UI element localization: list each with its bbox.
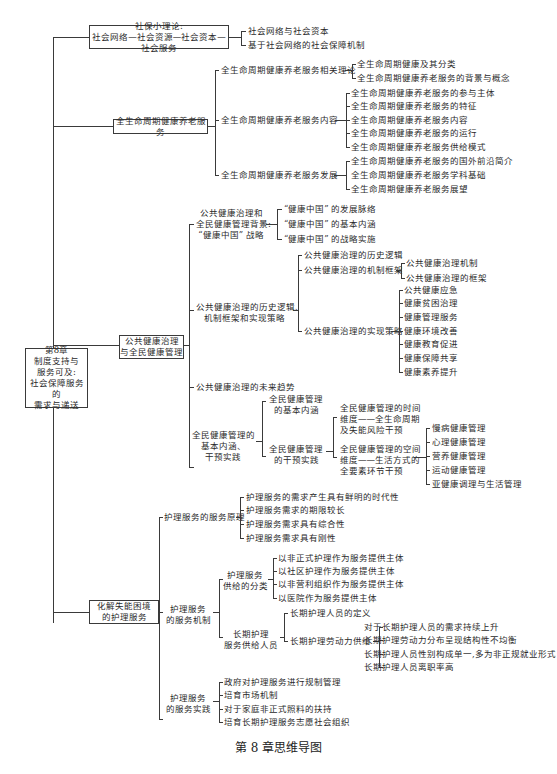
connector	[273, 558, 274, 598]
connector	[346, 93, 350, 94]
node-supply-classification[interactable]: 护理服务 供给的分类	[222, 570, 268, 592]
connector	[346, 147, 350, 148]
leaf-node[interactable]: 以非正式护理作为服务提供主体	[278, 553, 404, 564]
leaf-node[interactable]: 营养健康管理	[432, 451, 486, 462]
node-care-personnel[interactable]: 长期护理 服务供给人员	[222, 629, 280, 651]
leaf-node[interactable]: 护理服务需求具有刚性	[246, 533, 336, 544]
connector	[266, 224, 277, 225]
node-history-logic[interactable]: 公共健康治理的历史逻辑	[304, 250, 403, 261]
connector	[189, 310, 194, 311]
connector	[346, 189, 350, 190]
leaf-node[interactable]: “健康中国” 的基本内涵	[284, 219, 376, 230]
connector	[298, 255, 299, 331]
leaf-node[interactable]: 公共健康治理机制	[406, 258, 478, 269]
leaf-node[interactable]: 全生命周期健康养老服务的背景与概念	[357, 73, 510, 84]
node-background[interactable]: 公共健康治理和 全民健康管理背景: “健康中国” 战略	[196, 208, 266, 241]
connector	[352, 78, 356, 79]
node-line: “健康中国” 战略	[196, 230, 266, 241]
leaf-node[interactable]: 对于家庭非正式照料的扶持	[224, 704, 332, 715]
leaf-node[interactable]: 护理服务的需求产生具有鲜明的时代性	[246, 492, 399, 503]
leaf-node[interactable]: 健康素养提升	[404, 367, 458, 378]
leaf-node[interactable]: 基于社会网络的社会保障机制	[248, 40, 365, 51]
leaf-node[interactable]: 健康教育促进	[404, 339, 458, 350]
leaf-node[interactable]: 全生命周期健康养老服务的参与主体	[351, 88, 495, 99]
connector	[426, 484, 430, 485]
leaf-node[interactable]: 健康保障共享	[404, 353, 458, 364]
node-line: 维度——全生命周期	[340, 414, 421, 425]
node-content[interactable]: 全生命周期健康养老服务内容	[221, 115, 338, 126]
node-theory[interactable]: 全生命周期健康养老服务相关理论	[221, 65, 356, 76]
leaf-node[interactable]: 护理服务需求具有综合性	[246, 519, 345, 530]
leaf-node[interactable]: 全生命周期健康养老服务内容	[351, 115, 468, 126]
leaf-node[interactable]: 以非营利组织作为服务提供主体	[278, 579, 404, 590]
leaf-node[interactable]: 全生命周期健康养老服务的特征	[351, 101, 477, 112]
node-time-dimension[interactable]: 全民健康管理的时间 维度——全生命周期 及失能风险干预	[340, 403, 421, 436]
connector	[273, 558, 277, 559]
branch-label: 全生命周期健康养老服务	[114, 116, 207, 138]
node-personnel-definition[interactable]: 长期护理人员的定义	[290, 608, 371, 619]
leaf-node[interactable]: 全生命周期健康养老服务的运行	[351, 128, 477, 139]
node-line: 全民健康管理的空间	[340, 444, 421, 455]
leaf-node[interactable]: 健康管理服务	[404, 312, 458, 323]
branch-lifecycle-health-care[interactable]: 全生命周期健康养老服务	[113, 119, 208, 134]
leaf-node[interactable]: 培育市场机制	[224, 690, 278, 701]
connector	[189, 387, 194, 388]
leaf-node[interactable]: 长期护理人员性别构成单一,多为非正规就业形式	[364, 649, 556, 660]
node-line: 公共健康治理和	[196, 208, 266, 219]
node-service-practice[interactable]: 护理服务 的服务实践	[163, 693, 213, 715]
connector	[208, 126, 215, 127]
leaf-node[interactable]: 以社区护理作为服务提供主体	[278, 566, 395, 577]
node-line: 护理服务	[163, 693, 213, 704]
leaf-node[interactable]: 以医院作为服务提供主体	[278, 593, 377, 604]
branch-nursing-services[interactable]: 化解失能困境 的护理服务	[89, 600, 159, 624]
node-line: 全民健康管理	[266, 394, 326, 405]
leaf-node[interactable]: 运动健康管理	[432, 465, 486, 476]
node-service-principle[interactable]: 护理服务的服务原理	[164, 512, 245, 523]
node-national-health-management[interactable]: 全民健康管理的 基本内涵、 干预实践	[190, 430, 256, 463]
node-line: 的基本内涵	[266, 405, 326, 416]
leaf-node[interactable]: 健康贫困治理	[404, 298, 458, 309]
node-future-trend[interactable]: 公共健康治理的未来趋势	[196, 382, 295, 393]
branch-public-health-governance[interactable]: 公共健康治理 与全民健康管理	[119, 335, 184, 359]
leaf-node[interactable]: 全生命周期健康养老服务学科基础	[351, 170, 486, 181]
leaf-node[interactable]: 公共健康应急	[404, 285, 458, 296]
branch-social-theory[interactable]: 社保小理论: 社会网络—社会资源—社会资本—社会服务	[89, 25, 229, 49]
node-space-dimension[interactable]: 全民健康管理的空间 维度——生活方式的 全要素环节干预	[340, 444, 421, 477]
leaf-node[interactable]: 公共健康治理的框架	[406, 273, 487, 284]
leaf-node[interactable]: 全生命周期健康养老服务的国外前沿简介	[351, 156, 513, 167]
leaf-node[interactable]: 亚健康调理与生活管理	[432, 479, 522, 490]
node-history-framework-strategy[interactable]: 公共健康治理的历史逻辑、 机制框架和实现策略	[196, 302, 292, 324]
root-line: 需求与递送	[26, 400, 87, 411]
leaf-node[interactable]: 对于长期护理人员的需求持续上升	[364, 622, 499, 633]
node-basic-connotation[interactable]: 全民健康管理 的基本内涵	[266, 394, 326, 416]
root-line: 第8章	[26, 345, 87, 356]
leaf-node[interactable]: “健康中国” 的发展脉络	[284, 204, 376, 215]
connector	[277, 209, 278, 239]
leaf-node[interactable]: 政府对护理服务进行规制管理	[224, 677, 341, 688]
root-node-chapter8[interactable]: 第8章 制度支持与 服务可及: 社会保障服务的 需求与递送	[25, 348, 88, 408]
connector	[284, 641, 288, 642]
node-service-mechanism[interactable]: 护理服务 的服务机制	[163, 604, 213, 626]
branch-line: 社会网络—社会资源—社会资本—社会服务	[90, 32, 228, 54]
connector	[345, 70, 352, 71]
node-labor-supply[interactable]: 长期护理劳动力供给	[290, 636, 371, 647]
connector	[399, 372, 403, 373]
leaf-node[interactable]: 全生命周期健康养老服务供给模式	[351, 142, 486, 153]
branch-line: 与全民健康管理	[120, 347, 183, 358]
node-development[interactable]: 全生命周期健康养老服务发展	[221, 170, 338, 181]
leaf-node[interactable]: 全生命周期健康养老服务展望	[351, 184, 468, 195]
leaf-node[interactable]: “健康中国” 的战略实施	[284, 234, 376, 245]
leaf-node[interactable]: 社会网络与社会资本	[248, 26, 329, 37]
node-framework[interactable]: 公共健康治理的机制框架	[304, 265, 403, 276]
leaf-node[interactable]: 长期护理人员离职率高	[364, 662, 454, 673]
node-line: 全民健康管理的	[190, 430, 256, 441]
leaf-node[interactable]: 护理服务需求的期限较长	[246, 505, 345, 516]
leaf-node[interactable]: 慢病健康管理	[432, 423, 486, 434]
node-intervention-practice[interactable]: 全民健康管理 的干预实践	[266, 444, 326, 466]
leaf-node[interactable]: 健康环境改善	[404, 326, 458, 337]
node-strategy[interactable]: 公共健康治理的实现策略	[304, 326, 403, 337]
leaf-node[interactable]: 长期护理劳动力分布呈现结构性不均衡	[364, 635, 517, 646]
leaf-node[interactable]: 培育长期护理服务志愿社会组织	[224, 717, 350, 728]
leaf-node[interactable]: 全生命周期健康及其分类	[357, 59, 456, 70]
leaf-node[interactable]: 心理健康管理	[432, 437, 486, 448]
